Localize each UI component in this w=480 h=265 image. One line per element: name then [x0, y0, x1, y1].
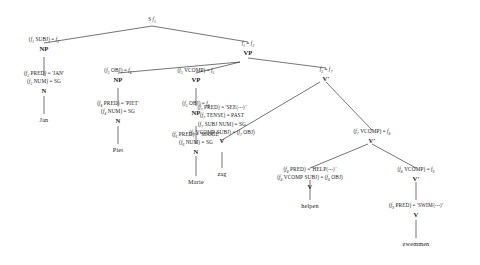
terminal-zag: zag: [217, 170, 226, 177]
vbar2-category: V′: [354, 137, 391, 145]
v2-annotation-vcompsubj: (f8 VCOMP SUBJ) = (f8 OBJ): [277, 174, 343, 182]
np1-category: NP: [29, 45, 59, 53]
terminal-marie-text: Marie: [188, 178, 204, 185]
n2-category: N: [97, 117, 139, 125]
vbar3-category: V′: [398, 175, 435, 183]
terminal-jan: Jan: [40, 116, 49, 123]
v1-annotation-tense: (f7 TENSE) = PAST: [189, 112, 255, 120]
n2-annotation-pred: (f4 PRED) = 'PIET': [97, 100, 139, 108]
n3-category: N: [172, 148, 220, 156]
terminal-jan-text: Jan: [40, 116, 49, 123]
node-vbar3: (f8 VCOMP) = f9 V′: [398, 166, 435, 182]
edge-vbar2-vbar3: [372, 144, 416, 168]
node-s-root: S f1: [148, 16, 156, 24]
node-np2: (f3 OBJ) = f4 NP: [104, 67, 131, 83]
n2-annotation-num: (f4 NUM) = SG: [97, 108, 139, 116]
n1-category: N: [24, 87, 64, 95]
np2-category: NP: [104, 76, 131, 84]
vp1-annotation: f1 = f3: [242, 40, 255, 48]
v2-annotation-pred: (f8 PRED) = 'HELP⟨⋯⟩': [277, 166, 343, 174]
node-np1: (f1 SUBJ) = f2 NP: [29, 36, 59, 52]
terminal-zwemmen-text: zwemmen: [403, 240, 430, 247]
node-n1: (f2 PRED) = 'JAN' (f2 NUM) = SG N: [24, 70, 64, 95]
terminal-marie: Marie: [188, 178, 204, 185]
vbar1-annotation: f3 = f7: [320, 66, 333, 74]
syntax-tree-diagram: S f1 (f1 SUBJ) = f2 NP (f2 PRED) = 'JAN'…: [0, 0, 480, 265]
edge-s-np1: [44, 26, 152, 43]
v1-annotation-pred: (f7 PRED) = 'SEE⟨⋯⟩': [189, 104, 255, 112]
vbar3-annotation: (f8 VCOMP) = f9: [398, 166, 435, 174]
terminal-helpen-text: helpen: [301, 202, 319, 209]
np2-annotation: (f3 OBJ) = f4: [104, 67, 131, 75]
edge-vp1-vbar1: [248, 58, 326, 68]
terminal-zag-text: zag: [217, 170, 226, 177]
edge-vbar1-vbar2: [326, 82, 372, 130]
node-v1: (f7 PRED) = 'SEE⟨⋯⟩' (f7 TENSE) = PAST (…: [189, 104, 255, 145]
node-vbar1: f3 = f7 V′: [320, 66, 333, 82]
terminal-zwemmen: zwemmen: [403, 240, 430, 247]
edge-vbar2-v2: [310, 144, 368, 168]
vbar1-category: V′: [320, 75, 333, 83]
v1-annotation-vcompsubj: (f7 VCOMP SUBJ) = (f7 OBJ): [189, 129, 255, 137]
node-v2: (f8 PRED) = 'HELP⟨⋯⟩' (f8 VCOMP SUBJ) = …: [277, 166, 343, 191]
v1-category: V: [189, 137, 255, 145]
v2-category: V: [277, 183, 343, 191]
terminal-piet: Piet: [113, 146, 123, 153]
np1-annotation: (f1 SUBJ) = f2: [29, 36, 59, 44]
node-vbar2: (f7 VCOMP) = f8 V′: [354, 128, 391, 144]
terminal-piet-text: Piet: [113, 146, 123, 153]
edge-s-vp1: [152, 26, 248, 42]
v3-category: V: [389, 211, 443, 219]
vp2-category: VP: [178, 76, 215, 84]
v1-annotation-subjnum: (f7 SUBJ NUM) = SG: [189, 121, 255, 129]
n1-annotation-num: (f2 NUM) = SG: [24, 78, 64, 86]
node-vp1: f1 = f3 VP: [242, 40, 255, 56]
vp2-annotation: (f3 VCOMP) = f5: [178, 67, 215, 75]
vp1-category: VP: [242, 49, 255, 57]
n1-annotation-pred: (f2 PRED) = 'JAN': [24, 70, 64, 78]
node-vp2: (f3 VCOMP) = f5 VP: [178, 67, 215, 83]
node-v3: (f9 PRED) = 'SWIM⟨⋯⟩' V: [389, 202, 443, 218]
v3-annotation-pred: (f9 PRED) = 'SWIM⟨⋯⟩': [389, 202, 443, 210]
vbar2-annotation: (f7 VCOMP) = f8: [354, 128, 391, 136]
terminal-helpen: helpen: [301, 202, 319, 209]
node-n2: (f4 PRED) = 'PIET' (f4 NUM) = SG N: [97, 100, 139, 125]
node-s-label: S f1: [148, 16, 156, 24]
